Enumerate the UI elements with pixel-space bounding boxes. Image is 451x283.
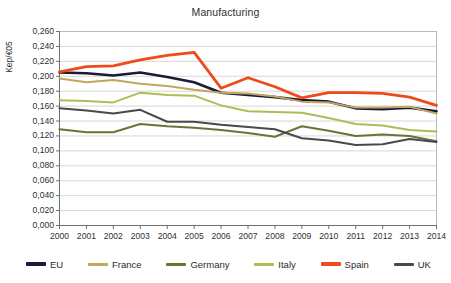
y-axis-tick-label: 0,180 (12, 86, 54, 96)
legend-swatch-eu (26, 262, 46, 266)
legend-item-germany[interactable]: Germany (166, 259, 229, 270)
x-axis-tick-label: 2001 (72, 231, 100, 241)
legend-swatch-germany (166, 263, 186, 266)
series-line-italy (60, 93, 437, 132)
x-axis-tick-label: 2012 (369, 231, 397, 241)
legend-label: UK (418, 259, 431, 270)
x-axis-tick-label: 2014 (423, 231, 451, 241)
plot-area (0, 0, 451, 283)
y-axis-tick-label: 0,120 (12, 130, 54, 140)
series-line-uk (60, 108, 437, 145)
y-axis-tick-label: 0,140 (12, 116, 54, 126)
x-axis-tick-label: 2007 (234, 231, 262, 241)
legend-item-spain[interactable]: Spain (321, 259, 369, 270)
x-axis-tick-label: 2000 (46, 231, 74, 241)
x-axis-ticks (60, 226, 437, 230)
legend-label: Italy (278, 259, 295, 270)
legend-item-uk[interactable]: UK (394, 259, 431, 270)
legend-item-eu[interactable]: EU (26, 259, 63, 270)
series-lines (60, 52, 437, 145)
y-axis-tick-label: 0,200 (12, 71, 54, 81)
legend-label: Spain (345, 259, 369, 270)
series-line-spain (60, 52, 437, 105)
chart-legend: EUFranceGermanyItalySpainUK (26, 256, 431, 272)
legend-swatch-uk (394, 263, 414, 266)
x-axis-tick-label: 2003 (126, 231, 154, 241)
legend-swatch-italy (254, 263, 274, 266)
legend-label: EU (50, 259, 63, 270)
legend-label: France (112, 259, 142, 270)
gridlines (60, 32, 437, 211)
legend-label: Germany (190, 259, 229, 270)
y-axis-tick-label: 0,080 (12, 160, 54, 170)
x-axis-tick-label: 2005 (180, 231, 208, 241)
y-axis-tick-label: 0,220 (12, 56, 54, 66)
x-axis-tick-label: 2006 (207, 231, 235, 241)
y-axis-tick-label: 0,160 (12, 101, 54, 111)
x-axis-tick-label: 2009 (288, 231, 316, 241)
x-axis-tick-label: 2002 (99, 231, 127, 241)
y-axis-tick-label: 0,100 (12, 145, 54, 155)
x-axis-tick-label: 2010 (315, 231, 343, 241)
x-axis-tick-label: 2008 (261, 231, 289, 241)
x-axis-tick-label: 2004 (153, 231, 181, 241)
y-axis-tick-label: 0,000 (12, 220, 54, 230)
legend-item-france[interactable]: France (88, 259, 142, 270)
x-axis-tick-label: 2011 (342, 231, 370, 241)
legend-swatch-spain (321, 262, 341, 266)
y-axis-tick-label: 0,260 (12, 26, 54, 36)
legend-swatch-france (88, 263, 108, 266)
legend-item-italy[interactable]: Italy (254, 259, 295, 270)
axis-lines (60, 31, 438, 226)
manufacturing-line-chart: Manufacturing Kep/€05 0,0000,0200,0400,0… (0, 0, 451, 283)
y-axis-tick-label: 0,240 (12, 41, 54, 51)
y-axis-tick-label: 0,040 (12, 190, 54, 200)
x-axis-tick-label: 2013 (396, 231, 424, 241)
y-axis-tick-label: 0,060 (12, 175, 54, 185)
y-axis-tick-label: 0,020 (12, 205, 54, 215)
